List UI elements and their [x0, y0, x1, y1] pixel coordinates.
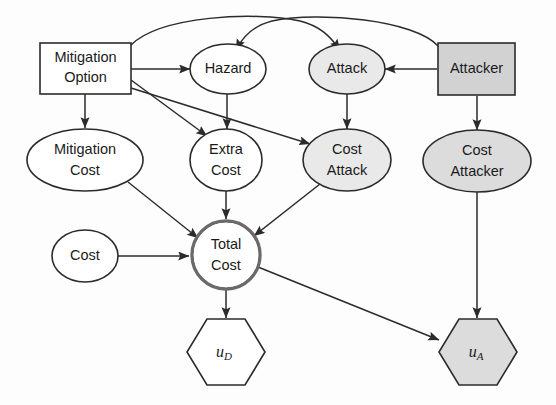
node-cost-attacker-label-line2: Attacker [450, 163, 503, 179]
node-mitigation-option-label-line1: Mitigation [54, 49, 116, 65]
node-attack-label: Attack [327, 60, 368, 76]
influence-diagram-canvas: Mitigation Option Hazard Attack Attacker… [0, 0, 556, 405]
node-ud[interactable]: uD [187, 319, 265, 385]
node-mitigation-option-label-line2: Option [64, 69, 107, 85]
node-extra-cost[interactable]: Extra Cost [190, 129, 262, 191]
node-attacker-label: Attacker [450, 60, 503, 76]
node-mitigation-cost-label-line1: Mitigation [54, 141, 116, 157]
node-attacker[interactable]: Attacker [438, 43, 515, 95]
node-cost-attack-label-line1: Cost [332, 141, 362, 157]
node-cost[interactable]: Cost [52, 230, 118, 282]
node-cost-attack-label-line2: Attack [327, 162, 368, 178]
node-extra-cost-label-line2: Cost [211, 162, 241, 178]
node-total-cost[interactable]: Total Cost [192, 221, 260, 289]
node-total-cost-label-line2: Cost [211, 257, 241, 273]
node-attack[interactable]: Attack [309, 44, 385, 94]
edge-cost-attack-to-total-cost [254, 184, 320, 236]
edge-mitigation-cost-to-total-cost [128, 182, 198, 238]
node-mitigation-cost-label-line2: Cost [70, 162, 100, 178]
node-cost-attacker-label-line1: Cost [462, 142, 492, 158]
node-cost-label: Cost [70, 247, 100, 263]
node-ua-label-subscript: A [476, 350, 484, 362]
edge-layer [85, 16, 477, 340]
node-mitigation-option[interactable]: Mitigation Option [40, 43, 131, 94]
node-extra-cost-label-line1: Extra [209, 141, 244, 157]
node-cost-attacker[interactable]: Cost Attacker [423, 130, 531, 192]
node-cost-attack[interactable]: Cost Attack [303, 129, 391, 191]
diagram-svg: Mitigation Option Hazard Attack Attacker… [0, 0, 556, 405]
node-ud-label-subscript: D [223, 350, 232, 362]
edge-total-cost-to-ua [258, 267, 439, 340]
node-ud-label-base: u [216, 343, 224, 360]
node-hazard[interactable]: Hazard [190, 44, 266, 94]
node-mitigation-cost[interactable]: Mitigation Cost [27, 129, 143, 191]
node-total-cost-label-line1: Total [211, 236, 242, 252]
node-ua[interactable]: uA [439, 319, 517, 385]
node-hazard-label: Hazard [205, 60, 252, 76]
node-ua-label-base: u [469, 343, 477, 360]
